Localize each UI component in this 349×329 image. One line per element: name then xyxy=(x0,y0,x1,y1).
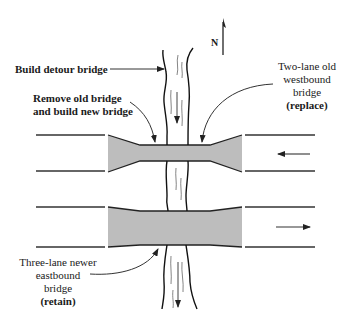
westbound-label-line3: bridge xyxy=(265,86,349,99)
remove-label-line1: Remove old bridge xyxy=(33,92,133,105)
westbound-label-action: (replace) xyxy=(265,99,349,112)
westbound-leader-arrow xyxy=(202,84,273,142)
westbound-label-line1: Two-lane old xyxy=(265,60,349,73)
eastbound-label: Three-lane newer eastbound bridge (retai… xyxy=(10,256,106,308)
remove-label: Remove old bridge and build new bridge xyxy=(33,92,133,118)
detour-label: Build detour bridge xyxy=(15,63,108,76)
westbound-label: Two-lane old westbound bridge (replace) xyxy=(265,60,349,112)
westbound-label-line2: westbound xyxy=(265,73,349,86)
eastbound-label-line3: bridge xyxy=(10,282,106,295)
eastbound-label-action: (retain) xyxy=(10,295,106,308)
remove-leader-arrow xyxy=(130,102,155,142)
river xyxy=(162,48,197,309)
eastbound-label-line1: Three-lane newer xyxy=(10,256,106,269)
eastbound-label-line2: eastbound xyxy=(10,269,106,282)
remove-label-line2: and build new bridge xyxy=(33,105,133,118)
westbound-bridge xyxy=(108,135,242,172)
eastbound-bridge xyxy=(108,207,242,247)
north-label: N xyxy=(211,36,218,49)
bridge-diagram: N Build detour bridge Remove old bridge … xyxy=(0,0,349,329)
